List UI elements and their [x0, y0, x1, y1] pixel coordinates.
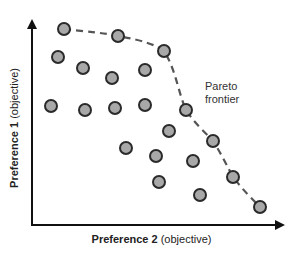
data-point	[106, 72, 118, 84]
x-axis-label-unit: (objective)	[158, 233, 212, 245]
pareto-frontier-label: Pareto frontier	[205, 80, 239, 106]
data-point	[52, 51, 64, 63]
frontier-data-point	[180, 104, 192, 116]
y-axis-label-main: Preference 1	[8, 122, 20, 188]
y-axis-label-unit: (objective)	[8, 68, 20, 122]
x-axis-label-main: Preference 2	[92, 233, 158, 245]
data-point	[163, 125, 175, 137]
data-point	[153, 176, 165, 188]
data-point	[139, 64, 151, 76]
x-axis-label: Preference 2 (objective)	[0, 233, 303, 245]
y-axis-label: Preference 1 (objective)	[8, 68, 20, 188]
frontier-data-point	[227, 171, 239, 183]
data-point	[187, 155, 199, 167]
data-point	[150, 150, 162, 162]
data-point	[120, 142, 132, 154]
data-point	[194, 189, 206, 201]
frontier-label-line1: Pareto	[205, 80, 239, 93]
pareto-diagram	[0, 0, 303, 253]
data-point	[79, 104, 91, 116]
data-points	[45, 23, 266, 213]
data-point	[139, 99, 151, 111]
data-point	[77, 62, 89, 74]
frontier-data-point	[58, 23, 70, 35]
frontier-data-point	[112, 30, 124, 42]
data-point	[109, 102, 121, 114]
frontier-label-line2: frontier	[205, 93, 239, 106]
frontier-data-point	[207, 135, 219, 147]
frontier-data-point	[254, 201, 266, 213]
frontier-data-point	[158, 45, 170, 57]
data-point	[45, 100, 57, 112]
